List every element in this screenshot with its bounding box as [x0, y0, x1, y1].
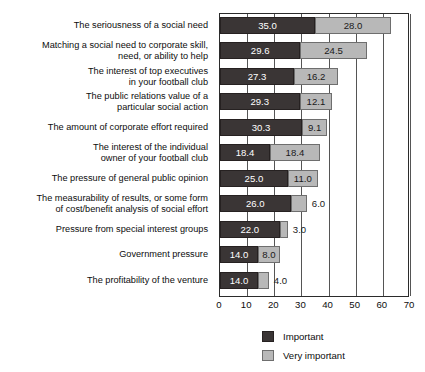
bar-value-very-important: 6.0	[307, 195, 352, 212]
bar-value-very-important: 16.2	[294, 68, 338, 85]
bar-value-very-important: 12.1	[300, 93, 333, 110]
bar-row: 14.04.0	[220, 272, 410, 289]
bar-value-important: 29.6	[220, 42, 300, 59]
category-label: The interest of the individual owner of …	[0, 142, 212, 163]
bar-value-very-important: 11.0	[288, 170, 318, 187]
x-tick-label: 60	[377, 299, 388, 310]
bar-value-important: 14.0	[220, 246, 258, 263]
bar-value-important: 29.3	[220, 93, 300, 110]
bar-value-important: 35.0	[220, 17, 315, 34]
bar-segment-very-important	[258, 272, 269, 289]
bar-value-important: 25.0	[220, 170, 288, 187]
bar-row: 27.316.2	[220, 68, 410, 85]
legend-label: Very important	[283, 350, 345, 361]
bar-row: 30.39.1	[220, 119, 410, 136]
plot-area: 35.028.029.624.527.316.229.312.130.39.11…	[219, 13, 409, 297]
legend-swatch-very-important	[262, 350, 274, 361]
x-tick-label: 40	[322, 299, 333, 310]
bar-value-very-important: 8.0	[258, 246, 280, 263]
category-label: The public relations value of a particul…	[0, 91, 212, 112]
bar-segment-very-important	[280, 221, 288, 238]
category-label: Matching a social need to corporate skil…	[0, 40, 212, 61]
bar-value-very-important: 28.0	[315, 17, 391, 34]
gridline-70	[410, 14, 411, 296]
x-tick-label: 30	[295, 299, 306, 310]
bar-row: 22.03.0	[220, 221, 410, 238]
bar-value-important: 14.0	[220, 272, 258, 289]
bar-segment-very-important	[291, 195, 307, 212]
bar-value-very-important: 4.0	[269, 272, 314, 289]
bar-value-very-important: 3.0	[288, 221, 333, 238]
horizontal-stacked-bar-chart: The seriousness of a social needMatching…	[0, 0, 425, 372]
bar-row: 29.312.1	[220, 93, 410, 110]
x-tick-label: 50	[349, 299, 360, 310]
bar-row: 14.08.0	[220, 246, 410, 263]
bar-value-very-important: 24.5	[300, 42, 367, 59]
category-label: The interest of top executives in your f…	[0, 66, 212, 87]
bar-value-important: 22.0	[220, 221, 280, 238]
bar-row: 29.624.5	[220, 42, 410, 59]
bar-value-very-important: 18.4	[270, 144, 320, 161]
chart-legend: ImportantVery important	[262, 328, 345, 366]
category-label: Government pressure	[0, 249, 212, 260]
x-axis-tick-labels: 010203040506070	[219, 299, 409, 313]
bar-value-important: 27.3	[220, 68, 294, 85]
bar-value-important: 30.3	[220, 119, 302, 136]
category-label: The seriousness of a social need	[0, 20, 212, 31]
legend-label: Important	[283, 331, 324, 342]
x-tick-label: 70	[404, 299, 415, 310]
category-label: The amount of corporate effort required	[0, 122, 212, 133]
bar-row: 26.06.0	[220, 195, 410, 212]
bar-row: 35.028.0	[220, 17, 410, 34]
x-tick-label: 10	[241, 299, 252, 310]
x-tick-label: 20	[268, 299, 279, 310]
bar-value-important: 26.0	[220, 195, 291, 212]
category-label: Pressure from special interest groups	[0, 224, 212, 235]
bar-value-important: 18.4	[220, 144, 270, 161]
bar-value-very-important: 9.1	[302, 119, 327, 136]
bar-row: 18.418.4	[220, 144, 410, 161]
category-label: The profitability of the venture	[0, 275, 212, 286]
legend-item: Very important	[262, 347, 345, 363]
category-label: The pressure of general public opinion	[0, 173, 212, 184]
x-tick-label: 0	[216, 299, 221, 310]
legend-item: Important	[262, 328, 345, 344]
bar-row: 25.011.0	[220, 170, 410, 187]
legend-swatch-important	[262, 331, 274, 342]
category-label: The measurability of results, or some fo…	[0, 193, 212, 214]
